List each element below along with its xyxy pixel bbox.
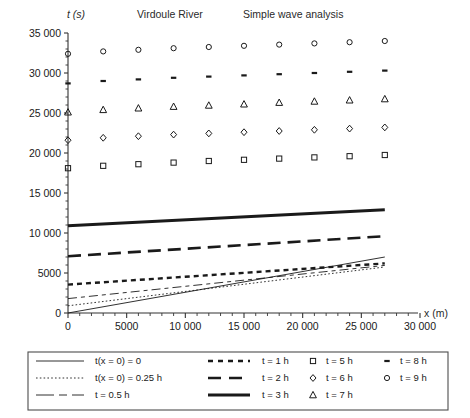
- legend-item-label: t = 6 h: [326, 372, 353, 383]
- y-tick-label: 5000: [38, 267, 62, 279]
- marker-dash: [312, 72, 317, 74]
- marker-dash: [241, 74, 246, 76]
- marker-dash: [277, 73, 282, 75]
- x-tick-label: 5000: [115, 320, 139, 332]
- legend-item-label: t = 8 h: [400, 355, 427, 366]
- y-tick-label: 30 000: [29, 67, 61, 79]
- x-tick-label: 30 000: [404, 320, 436, 332]
- marker-dash: [347, 71, 352, 73]
- y-tick-label: 25 000: [29, 107, 61, 119]
- y-tick-label: 10 000: [29, 227, 61, 239]
- marker-dash: [384, 360, 389, 362]
- legend-item-label: t = 7 h: [326, 389, 353, 400]
- chart-figure: Virdoule River Simple wave analysis t (s…: [0, 0, 470, 418]
- marker-dash: [206, 76, 211, 78]
- legend-item-label: t = 5 h: [326, 355, 353, 366]
- legend-item-label: t(x = 0) = 0: [95, 355, 141, 366]
- legend-item-label: t = 9 h: [400, 372, 427, 383]
- marker-dash: [101, 80, 106, 82]
- legend-item-label: t = 1 h: [262, 355, 289, 366]
- chart-title-left: Virdoule River: [137, 8, 203, 20]
- legend-item-label: t = 2 h: [262, 372, 289, 383]
- x-tick-label: 15 000: [228, 320, 260, 332]
- x-tick-label: 20 000: [287, 320, 319, 332]
- marker-dash: [65, 82, 70, 84]
- legend-item-label: t = 0.5 h: [95, 389, 130, 400]
- y-tick-label: 20 000: [29, 147, 61, 159]
- y-axis-label: t (s): [67, 8, 85, 20]
- marker-dash: [136, 78, 141, 80]
- x-axis-label: x (m): [424, 307, 448, 319]
- x-tick-label: 25 000: [345, 320, 377, 332]
- marker-dash: [382, 70, 387, 72]
- legend-item-label: t(x = 0) = 0.25 h: [95, 372, 162, 383]
- y-tick-label: 35 000: [29, 27, 61, 39]
- marker-dash: [171, 77, 176, 79]
- y-tick-label: 15 000: [29, 187, 61, 199]
- y-tick-label: 0: [55, 307, 61, 319]
- legend-item-label: t = 3 h: [262, 389, 289, 400]
- chart-title-right: Simple wave analysis: [243, 8, 343, 20]
- x-tick-label: 10 000: [169, 320, 201, 332]
- x-tick-label: 0: [65, 320, 71, 332]
